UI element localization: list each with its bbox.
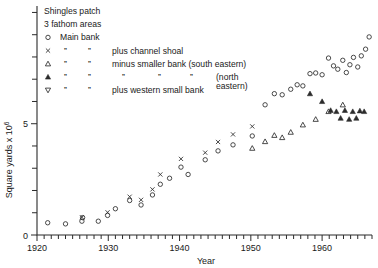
data-point (336, 67, 340, 71)
data-point (347, 117, 352, 122)
data-point (203, 151, 207, 155)
data-point (216, 140, 220, 144)
data-point (203, 158, 207, 162)
x-tick-label: 1940 (170, 243, 190, 253)
data-point (334, 109, 339, 114)
data-point (113, 207, 117, 211)
data-point (341, 58, 345, 62)
data-point (307, 91, 312, 96)
data-point (231, 143, 235, 147)
legend-marker-cross (46, 49, 50, 53)
series-cross (80, 124, 255, 219)
data-point (342, 108, 347, 113)
legend-marker-triangle-up-open (45, 61, 50, 66)
data-point (367, 35, 371, 39)
data-point (105, 210, 109, 214)
data-point (356, 65, 360, 69)
data-point (348, 63, 352, 67)
data-point (45, 221, 49, 225)
data-point (313, 71, 317, 75)
data-point (280, 93, 284, 97)
legend-item[interactable]: ””minus smaller bank (south eastern) (45, 59, 246, 69)
data-point (262, 139, 267, 144)
data-point (351, 55, 355, 59)
x-tick-label: 1920 (27, 243, 47, 253)
data-point (326, 56, 330, 60)
legend-ditto-mark: ” (88, 72, 91, 82)
legend-ditto-mark: ” (64, 85, 67, 95)
data-point (63, 222, 67, 226)
data-point (263, 103, 267, 107)
x-axis-title: Year (197, 256, 215, 266)
legend-marker-circle-open (46, 35, 50, 39)
data-point (186, 172, 190, 176)
legend-ditto-mark: ” (64, 46, 67, 56)
legend-marker-triangle-down-open (45, 88, 50, 93)
data-point (295, 83, 299, 87)
data-point (363, 47, 367, 51)
data-point (179, 157, 183, 161)
data-point (288, 130, 293, 135)
data-point (216, 149, 220, 153)
legend-label: minus smaller bank (south eastern) (112, 59, 246, 69)
data-point (158, 182, 162, 186)
data-point (150, 193, 154, 197)
legend-ditto-mark: ” (64, 72, 67, 82)
data-point (320, 99, 325, 104)
legend-ditto-mark: ” (88, 59, 91, 69)
legend-label: Main bank (60, 32, 100, 42)
data-point (280, 135, 285, 140)
x-tick-label: 1930 (98, 243, 118, 253)
legend-group: Shingles patch3 fathom areasMain bank””p… (44, 6, 248, 95)
legend-item[interactable]: ””plus western small bank (45, 85, 204, 95)
chart-svg: 1920193019401950196005 Shingles patch3 f… (0, 0, 378, 268)
legend-item[interactable]: ””plus channel shoal (46, 46, 183, 56)
data-point (250, 134, 254, 138)
legend-ditto-mark: ” (88, 85, 91, 95)
data-point (362, 109, 367, 114)
chart-figure: 1920193019401950196005 Shingles patch3 f… (0, 0, 378, 268)
data-point (179, 165, 183, 169)
series-triangle-up-filled (307, 91, 366, 121)
data-point (338, 116, 343, 121)
data-point (320, 73, 324, 77)
y-axis-title: Square yards x 106 (3, 121, 14, 198)
data-point (301, 84, 305, 88)
x-tick-label: 1950 (241, 243, 261, 253)
data-point (340, 102, 345, 107)
legend-label: plus channel shoal (112, 46, 183, 56)
data-point (272, 133, 277, 138)
data-point (331, 64, 335, 68)
legend-subtitle: 3 fathom areas (44, 19, 101, 29)
data-point (250, 146, 255, 151)
legend-ditto-mark: ” (190, 72, 193, 82)
data-point (127, 198, 131, 202)
legend-label: (northeastern) (216, 72, 248, 91)
legend-item[interactable]: Main bank (46, 32, 101, 42)
legend-label: plus western small bank (112, 85, 204, 95)
x-tick-label: 1960 (312, 243, 332, 253)
legend-marker-triangle-up-filled (45, 74, 50, 79)
data-point (357, 108, 362, 113)
axes-group: 1920193019401950196005 (23, 6, 372, 253)
data-point (272, 91, 276, 95)
data-point (289, 87, 293, 91)
data-point (308, 71, 312, 75)
data-point (359, 54, 363, 58)
data-point (250, 124, 254, 128)
legend-ditto-mark: ” (158, 72, 161, 82)
y-tick-label: 5 (23, 119, 28, 129)
legend-ditto-mark: ” (64, 59, 67, 69)
data-point (139, 203, 143, 207)
data-point (231, 132, 235, 136)
legend-title: Shingles patch (44, 6, 101, 16)
legend-ditto-mark: ” (88, 46, 91, 56)
data-point (139, 198, 143, 202)
data-point (313, 117, 318, 122)
legend-ditto-mark: ” (122, 72, 125, 82)
data-point (167, 176, 171, 180)
data-point (350, 109, 355, 114)
data-point (300, 122, 305, 127)
y-tick-label: 0 (23, 231, 28, 241)
data-point (344, 70, 348, 74)
